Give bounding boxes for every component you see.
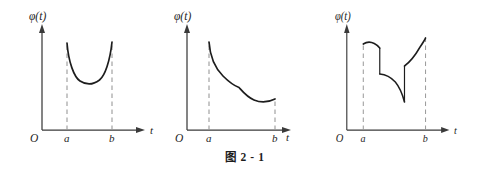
origin-label: O — [336, 132, 344, 145]
y-axis-label: φ(t) — [29, 10, 46, 23]
tick-label-b: b — [272, 132, 278, 144]
tick-label-b: b — [423, 133, 428, 144]
origin-label: O — [30, 132, 39, 144]
x-axis-label: t — [454, 125, 458, 136]
curve-phi — [209, 42, 275, 102]
curve-phi-branch-2 — [380, 74, 405, 102]
y-axis-label: φ(t) — [174, 10, 191, 23]
x-axis-label: t — [150, 124, 154, 136]
y-axis-arrow-icon — [39, 24, 45, 33]
y-axis-label: φ(t) — [335, 10, 351, 24]
y-axis-arrow-icon — [344, 24, 349, 33]
chart-panel-2: φ(t) O a b t — [155, 0, 318, 145]
origin-label: O — [175, 132, 184, 144]
figure-caption: 图 2 - 1 — [0, 148, 490, 164]
tick-label-a: a — [361, 133, 366, 144]
chart-panel-3: φ(t) O a b t — [312, 0, 475, 145]
curve-phi-branch-3 — [404, 38, 425, 66]
y-axis-arrow-icon — [184, 24, 190, 33]
curve-phi — [67, 42, 112, 84]
curve-phi-branch-1 — [363, 42, 379, 48]
tick-label-a: a — [64, 132, 70, 144]
tick-label-a: a — [206, 132, 212, 144]
figure-container: φ(t) O a b t φ(t) O a b t — [0, 0, 490, 174]
chart-panel-1: φ(t) O a b t — [0, 0, 163, 145]
x-axis-arrow-icon — [441, 127, 449, 133]
x-axis-label: t — [286, 131, 290, 143]
x-axis-arrow-icon — [136, 127, 145, 133]
tick-label-b: b — [109, 132, 115, 144]
